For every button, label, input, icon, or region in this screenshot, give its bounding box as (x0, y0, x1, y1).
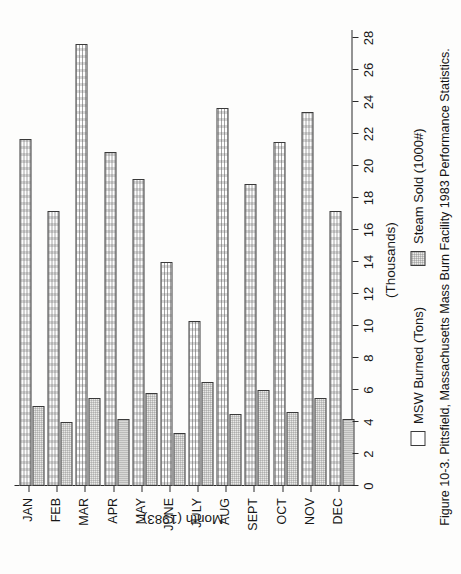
bar-group (42, 30, 70, 486)
category-tick-label: JAN (21, 498, 34, 554)
value-tick-label: 26 (361, 55, 374, 85)
bar-group (296, 30, 324, 486)
category-tick-label: APR (106, 498, 119, 554)
category-tick (169, 486, 170, 492)
category-tick-label: MAR (77, 498, 90, 554)
chart-legend: MSW Burned (Tons)Steam Sold (1000#) (410, 0, 434, 446)
figure-canvas: 0246810121416182022242628 JANFEBMARAPRMA… (0, 0, 461, 574)
category-tick (253, 486, 254, 492)
legend-item: MSW Burned (Tons) (410, 307, 425, 446)
category-tick (113, 486, 114, 492)
value-tick-label: 22 (361, 119, 374, 149)
value-tick-label: 16 (361, 215, 374, 245)
value-tick (352, 261, 358, 262)
bar-group (239, 30, 267, 486)
legend-label: MSW Burned (Tons) (410, 307, 425, 424)
value-tick (352, 389, 358, 390)
bar-group (324, 30, 352, 486)
value-tick-label: 6 (361, 375, 374, 405)
category-tick (310, 486, 311, 492)
value-tick-label: 2 (361, 439, 374, 469)
value-tick (352, 165, 358, 166)
bar-group (70, 30, 98, 486)
category-tick (197, 486, 198, 492)
value-tick (352, 133, 358, 134)
value-tick (352, 101, 358, 102)
bar-msw-burned (75, 44, 87, 486)
category-tick (338, 486, 339, 492)
value-tick-label: 18 (361, 183, 374, 213)
figure-caption-text: Figure 10-3. Pittsfield, Massachusetts M… (438, 48, 452, 525)
bar-msw-burned (19, 139, 31, 486)
value-tick-label: 4 (361, 407, 374, 437)
rotated-figure-wrapper: 0246810121416182022242628 JANFEBMARAPRMA… (0, 0, 461, 574)
category-tick (56, 486, 57, 492)
value-tick (352, 453, 358, 454)
category-tick-label: OCT (275, 498, 288, 554)
category-tick-label: FEB (49, 498, 62, 554)
bar-group (99, 30, 127, 486)
category-tick-label: NOV (303, 498, 316, 554)
bar-group (155, 30, 183, 486)
bar-msw-burned (188, 321, 200, 486)
value-tick-label: 24 (361, 87, 374, 117)
bar-group (14, 30, 42, 486)
legend-label: Steam Sold (1000#) (410, 128, 425, 244)
bar-msw-burned (273, 142, 285, 486)
bar-msw-burned (329, 211, 341, 486)
value-tick-label: 10 (361, 311, 374, 341)
category-axis-title: Month (1983) (142, 512, 222, 527)
category-tick (282, 486, 283, 492)
legend-item: Steam Sold (1000#) (410, 128, 425, 266)
plot-area (14, 30, 352, 486)
category-tick-label: SEPT (246, 498, 259, 554)
figure-caption: Figure 10-3. Pittsfield, Massachusetts M… (432, 0, 458, 574)
category-tick (141, 486, 142, 492)
bar-msw-burned (216, 108, 228, 486)
value-tick (352, 37, 358, 38)
category-tick-label: DEC (331, 498, 344, 554)
bar-msw-burned (47, 211, 59, 486)
value-tick (352, 229, 358, 230)
bar-group (183, 30, 211, 486)
value-tick (352, 485, 358, 486)
value-tick-label: 14 (361, 247, 374, 277)
category-tick (225, 486, 226, 492)
value-tick-label: 12 (361, 279, 374, 309)
value-tick (352, 357, 358, 358)
value-axis-title: (Thousands) (382, 222, 397, 298)
value-tick-label: 8 (361, 343, 374, 373)
value-tick (352, 325, 358, 326)
category-tick (84, 486, 85, 492)
value-tick-label: 20 (361, 151, 374, 181)
bar-msw-burned (132, 179, 144, 486)
bar-group (127, 30, 155, 486)
value-tick (352, 69, 358, 70)
bar-msw-burned (244, 184, 256, 486)
category-tick (28, 486, 29, 492)
value-tick-label: 0 (361, 471, 374, 501)
bar-msw-burned (301, 112, 313, 486)
value-tick (352, 197, 358, 198)
legend-swatch-msw (410, 431, 425, 446)
value-tick-label: 28 (361, 23, 374, 53)
bar-msw-burned (104, 152, 116, 486)
bar-group (211, 30, 239, 486)
bar-group (268, 30, 296, 486)
value-tick (352, 421, 358, 422)
bar-msw-burned (160, 262, 172, 486)
legend-swatch-steam (410, 251, 425, 266)
value-tick (352, 293, 358, 294)
